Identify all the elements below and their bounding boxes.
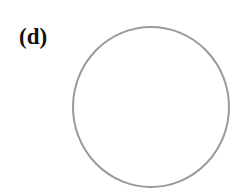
- diagram-canvas: [0, 0, 241, 192]
- circle-outline: [73, 27, 229, 187]
